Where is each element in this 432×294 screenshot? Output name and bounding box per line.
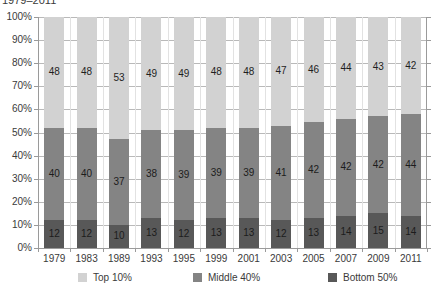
bar-value-label: 14 <box>405 227 416 237</box>
bar-segment-bottom[interactable]: 13 <box>239 218 259 248</box>
bar-segment-top[interactable]: 49 <box>174 17 194 130</box>
y-axis-tick-right <box>427 156 431 157</box>
bar-stack[interactable]: 483913 <box>206 17 226 248</box>
bar-segment-bottom[interactable]: 13 <box>141 218 161 248</box>
bar-segment-middle[interactable]: 37 <box>109 139 129 224</box>
bar-stack[interactable]: 493912 <box>174 17 194 248</box>
legend-item[interactable]: Bottom 50% <box>328 272 397 283</box>
bar-segment-bottom[interactable]: 12 <box>174 220 194 248</box>
x-axis-tick-label: 2003 <box>265 253 297 264</box>
bar-segment-middle[interactable]: 40 <box>77 128 97 220</box>
bar-stack[interactable]: 424414 <box>401 17 421 248</box>
x-axis-tick <box>297 248 298 252</box>
y-axis-tick-label: 80% <box>0 58 32 68</box>
bar-stack[interactable]: 533710 <box>109 17 129 248</box>
bar-stack[interactable]: 484012 <box>77 17 97 248</box>
bar-segment-middle[interactable]: 42 <box>304 122 324 218</box>
bar-segment-top[interactable]: 48 <box>239 17 259 128</box>
legend-item[interactable]: Top 10% <box>78 272 132 283</box>
bar-segment-top[interactable]: 44 <box>336 17 356 119</box>
bar-value-label: 44 <box>405 160 416 170</box>
bar-segment-middle[interactable]: 39 <box>206 128 226 218</box>
bar-segment-top[interactable]: 48 <box>44 17 64 128</box>
bar-segment-top[interactable]: 53 <box>109 17 129 139</box>
bar-segment-middle[interactable]: 41 <box>271 126 291 221</box>
x-axis-tick-label: 1989 <box>103 253 135 264</box>
bar-value-label: 46 <box>308 65 319 75</box>
x-axis-tick <box>330 248 331 252</box>
bar-segment-top[interactable]: 49 <box>141 17 161 130</box>
legend-swatch-icon <box>193 273 202 282</box>
x-axis-tick-label: 2001 <box>233 253 265 264</box>
bar-segment-middle[interactable]: 42 <box>336 119 356 216</box>
bar-value-label: 42 <box>340 162 351 172</box>
x-axis-tick-label: 1979 <box>38 253 70 264</box>
bar-stack[interactable]: 484012 <box>44 17 64 248</box>
bar-segment-bottom[interactable]: 12 <box>77 220 97 248</box>
y-axis-tick-right <box>427 109 431 110</box>
bar-segment-bottom[interactable]: 15 <box>368 213 388 248</box>
y-axis-tick-label: 100% <box>0 12 32 22</box>
x-axis-tick-label: 1993 <box>135 253 167 264</box>
y-axis-tick <box>34 17 38 18</box>
y-axis-tick-label: 30% <box>0 174 32 184</box>
bar-value-label: 39 <box>178 170 189 180</box>
y-axis-tick-right <box>427 225 431 226</box>
x-axis-tick <box>265 248 266 252</box>
bar-segment-top[interactable]: 48 <box>206 17 226 128</box>
y-axis-tick-right <box>427 86 431 87</box>
bar-segment-bottom[interactable]: 10 <box>109 225 129 248</box>
x-axis-tick-label: 2005 <box>297 253 329 264</box>
legend-item[interactable]: Middle 40% <box>193 272 260 283</box>
x-axis-tick <box>233 248 234 252</box>
bar-stack[interactable]: 434215 <box>368 17 388 248</box>
bar-segment-bottom[interactable]: 13 <box>304 218 324 248</box>
y-axis-tick <box>34 40 38 41</box>
bar-value-label: 15 <box>373 226 384 236</box>
bar-value-label: 12 <box>49 229 60 239</box>
bar-segment-top[interactable]: 46 <box>304 17 324 122</box>
bar-segment-top[interactable]: 42 <box>401 17 421 114</box>
bar-segment-bottom[interactable]: 14 <box>336 216 356 248</box>
bar-segment-bottom[interactable]: 13 <box>206 218 226 248</box>
bar-segment-bottom[interactable]: 14 <box>401 216 421 248</box>
bar-stack[interactable]: 444214 <box>336 17 356 248</box>
bar-segment-top[interactable]: 43 <box>368 17 388 116</box>
bar-value-label: 44 <box>340 63 351 73</box>
bar-value-label: 47 <box>276 66 287 76</box>
bar-segment-middle[interactable]: 44 <box>401 114 421 216</box>
bar-segment-top[interactable]: 47 <box>271 17 291 126</box>
y-axis-line <box>38 17 39 248</box>
bar-stack[interactable]: 474112 <box>271 17 291 248</box>
bar-segment-middle[interactable]: 38 <box>141 130 161 218</box>
bar-segment-bottom[interactable]: 12 <box>271 220 291 248</box>
bar-value-label: 13 <box>211 228 222 238</box>
category-separator <box>103 17 104 248</box>
category-separator <box>362 17 363 248</box>
x-axis-tick-label: 2011 <box>395 253 427 264</box>
bar-segment-bottom[interactable]: 12 <box>44 220 64 248</box>
bar-value-label: 14 <box>340 227 351 237</box>
bar-segment-middle[interactable]: 42 <box>368 116 388 213</box>
y-axis-tick-right <box>427 63 431 64</box>
bar-value-label: 13 <box>146 228 157 238</box>
bar-segment-middle[interactable]: 39 <box>239 128 259 218</box>
legend-label: Bottom 50% <box>343 272 397 283</box>
category-separator <box>265 17 266 248</box>
y-axis-tick <box>34 179 38 180</box>
y-axis-tick-right <box>427 202 431 203</box>
y-axis-tick <box>34 225 38 226</box>
bar-value-label: 39 <box>243 168 254 178</box>
bar-value-label: 41 <box>276 168 287 178</box>
bar-segment-middle[interactable]: 40 <box>44 128 64 220</box>
y-axis-tick-right <box>427 133 431 134</box>
x-axis-tick-label: 1999 <box>200 253 232 264</box>
bar-stack[interactable]: 464213 <box>304 17 324 248</box>
bar-value-label: 42 <box>373 160 384 170</box>
bar-value-label: 13 <box>243 228 254 238</box>
bar-stack[interactable]: 493813 <box>141 17 161 248</box>
bar-stack[interactable]: 483913 <box>239 17 259 248</box>
category-separator <box>233 17 234 248</box>
bar-segment-top[interactable]: 48 <box>77 17 97 128</box>
bar-segment-middle[interactable]: 39 <box>174 130 194 220</box>
